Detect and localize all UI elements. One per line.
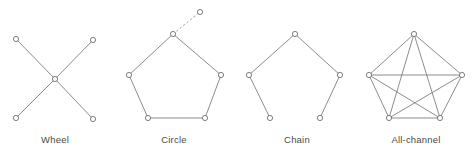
edge [249,75,270,118]
node-left [246,72,251,77]
diagram-label-wheel: Wheel [41,134,69,145]
edge-group [369,34,462,118]
edge-group [129,12,221,118]
node-bottom-right [202,115,207,120]
node-bottom-left [267,115,272,120]
edge [16,39,55,79]
node-center [52,76,57,81]
node-bottom-right [317,115,322,120]
edge [205,75,221,118]
edge [249,34,295,75]
edge [173,34,221,75]
diagram-all-channel: All-channel [366,31,464,145]
node-bottom-left [13,115,18,120]
node-group [246,31,342,120]
diagram-circle: Circle [126,9,223,145]
edge [16,79,55,118]
node-group [366,31,464,120]
diagram-label-circle: Circle [161,134,186,145]
node-bottom-left [386,115,391,120]
diagram-chain: Chain [246,31,342,145]
node-bottom-right [437,115,442,120]
diagram-label-all-channel: All-channel [391,134,440,145]
edge [129,34,173,75]
edge [414,34,462,75]
diagram-label-chain: Chain [284,134,310,145]
node-right [459,72,464,77]
edge [369,75,440,118]
node-right [218,72,223,77]
edge-dashed [173,12,200,34]
node-top [411,31,416,36]
node-top-left [13,36,18,41]
node-top [292,31,297,36]
edge [414,34,440,118]
network-topology-figure: WheelCircleChainAll-channel [0,0,473,154]
node-left [366,72,371,77]
node-top [170,31,175,36]
edge [295,34,340,75]
edge [369,34,414,75]
edge [129,75,148,118]
node-detached [197,9,202,14]
edge [55,79,93,119]
edge [320,75,340,118]
node-right [337,72,342,77]
node-bottom-left [145,115,150,120]
node-top-right [90,37,95,42]
diagram-wheel: Wheel [13,36,95,145]
edge [55,40,93,79]
node-left [126,72,131,77]
node-bottom-right [90,116,95,121]
edge-group [249,34,340,118]
